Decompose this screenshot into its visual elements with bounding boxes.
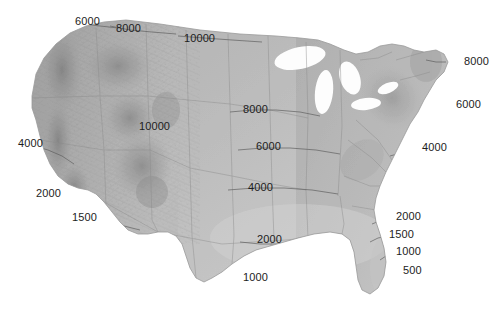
- contour-label: 1000: [243, 272, 268, 283]
- contour-label: 4000: [422, 142, 447, 153]
- contour-label: 500: [403, 265, 422, 276]
- contour-label: 1500: [389, 229, 414, 240]
- contour-label: 2000: [396, 211, 421, 222]
- contour-label: 6000: [456, 99, 481, 110]
- contour-label: 8000: [116, 23, 141, 34]
- contour-label: 2000: [36, 188, 61, 199]
- contour-label: 2000: [257, 234, 282, 245]
- contour-label: 1000: [396, 246, 421, 257]
- contour-label: 1500: [72, 212, 97, 223]
- contour-label: 10000: [184, 33, 215, 44]
- contour-label: 4000: [248, 182, 273, 193]
- contour-label: 10000: [139, 121, 170, 132]
- contour-label: 4000: [18, 138, 43, 149]
- us-elevation-contour-map: 6000800010000800080006000100006000400040…: [0, 0, 503, 318]
- contour-label: 8000: [464, 56, 489, 67]
- contour-label: 6000: [75, 16, 100, 27]
- contour-label-layer: 6000800010000800080006000100006000400040…: [0, 0, 503, 318]
- contour-label: 6000: [256, 141, 281, 152]
- contour-label: 8000: [243, 104, 268, 115]
